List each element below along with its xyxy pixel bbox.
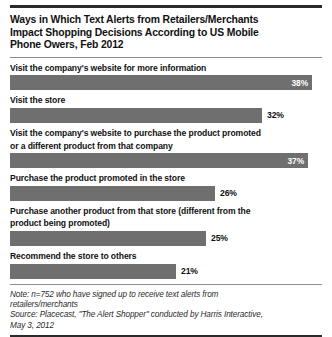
title-line-2: Impact Shopping Decisions According to U… (10, 27, 322, 40)
bar-group-5: Purchase another product from that store… (10, 206, 322, 246)
bar-category-label: Visit the company's website for more inf… (10, 63, 322, 74)
bar-category-label: Recommend the store to others (10, 251, 322, 262)
bar-category-label: Purchase the product promoted in the sto… (10, 173, 322, 184)
note-line-1: Note: n=752 who have signed up to receiv… (10, 290, 322, 300)
chart-card: Ways in Which Text Alerts from Retailers… (0, 5, 332, 326)
bar-4 (10, 186, 215, 201)
bar-row: 32% (10, 108, 322, 123)
bar-1: 38% (10, 75, 312, 90)
bar-group-2: Visit the store 32% (10, 95, 322, 123)
bar-5 (10, 231, 206, 246)
bar-category-label: Purchase another product from that store… (10, 206, 322, 217)
bar-value-6: 21% (181, 266, 198, 276)
title-line-3: Phone Owers, Feb 2012 (10, 39, 322, 52)
note-line-2: retailers/merchants (10, 300, 322, 310)
bar-2 (10, 108, 262, 123)
bar-category-label-cont: or a different product from that company (10, 141, 322, 152)
chart-title: Ways in Which Text Alerts from Retailers… (10, 8, 322, 57)
bar-category-label: Visit the company's website to purchase … (10, 128, 322, 139)
bar-value-3: 37% (288, 156, 304, 166)
chart-footer: Note: n=752 who have signed up to receiv… (10, 285, 322, 336)
bar-value-1: 38% (292, 78, 308, 88)
bar-row: 38% (10, 75, 322, 90)
bar-group-4: Purchase the product promoted in the sto… (10, 173, 322, 201)
source-line-1: Source: Placecast, "The Alert Shopper" c… (10, 310, 322, 320)
source-line-2: May 3, 2012 (10, 321, 322, 331)
bar-row: 26% (10, 186, 322, 201)
bar-group-6: Recommend the store to others 21% (10, 251, 322, 279)
bar-6 (10, 264, 176, 279)
bar-value-2: 32% (267, 110, 284, 120)
bar-row: 25% (10, 231, 322, 246)
bar-value-5: 25% (211, 233, 228, 243)
bar-value-4: 26% (220, 188, 237, 198)
bar-row: 21% (10, 264, 322, 279)
bar-category-label: Visit the store (10, 95, 322, 106)
bar-group-1: Visit the company's website for more inf… (10, 63, 322, 91)
bar-3: 37% (10, 153, 308, 168)
bar-chart-plot: Visit the company's website for more inf… (10, 58, 322, 279)
bar-category-label-cont: product being promoted) (10, 218, 322, 229)
title-line-1: Ways in Which Text Alerts from Retailers… (10, 14, 322, 27)
bar-row: 37% (10, 153, 322, 168)
bar-group-3: Visit the company's website to purchase … (10, 128, 322, 168)
